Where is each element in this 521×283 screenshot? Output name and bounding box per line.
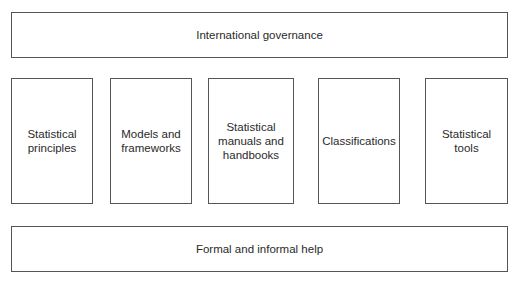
- statistical-tools-box: Statistical tools: [425, 78, 508, 204]
- models-and-frameworks-box: Models and frameworks: [110, 78, 192, 204]
- statistical-principles-label: Statistical principles: [27, 127, 76, 155]
- formal-informal-help-box: Formal and informal help: [11, 226, 508, 272]
- statistical-tools-label: Statistical tools: [442, 127, 491, 155]
- international-governance-label: International governance: [196, 28, 323, 42]
- statistical-manuals-label: Statistical manuals and handbooks: [218, 120, 284, 162]
- statistical-principles-box: Statistical principles: [11, 78, 93, 204]
- statistical-manuals-box: Statistical manuals and handbooks: [208, 78, 294, 204]
- classifications-label: Classifications: [322, 134, 396, 148]
- models-and-frameworks-label: Models and frameworks: [121, 127, 180, 155]
- classifications-box: Classifications: [318, 78, 400, 204]
- international-governance-box: International governance: [11, 12, 508, 58]
- formal-informal-help-label: Formal and informal help: [196, 242, 323, 256]
